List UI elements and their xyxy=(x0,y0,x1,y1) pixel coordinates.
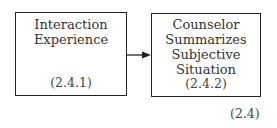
title-line: Counselor xyxy=(152,17,260,32)
box-number: (2.4.2) xyxy=(152,76,260,91)
equation-label: (2.4) xyxy=(230,106,260,121)
title-line: Subjective xyxy=(152,47,260,62)
box-title: Counselor Summarizes Subjective Situatio… xyxy=(152,17,260,77)
arrowhead-icon xyxy=(142,52,151,59)
counselor-summarizes-box: Counselor Summarizes Subjective Situatio… xyxy=(151,13,261,97)
title-line: Summarizes xyxy=(152,32,260,47)
title-line: Situation xyxy=(152,62,260,77)
